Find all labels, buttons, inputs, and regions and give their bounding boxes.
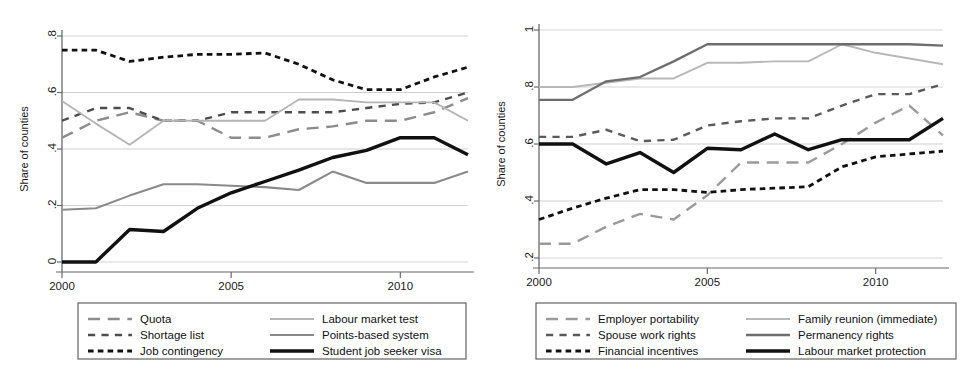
series-line <box>539 44 943 87</box>
legend-item-label: Financial incentives <box>598 345 699 357</box>
legend-item[interactable]: Quota <box>88 313 172 325</box>
legend-item[interactable]: Labour market protection <box>746 345 926 357</box>
y-tick-label: .4 <box>523 195 535 205</box>
left-chart-svg: 0.2.4.6.8200020052010Share of countiesQu… <box>0 0 481 383</box>
y-axis-title: Share of counties <box>18 106 30 192</box>
x-tick-label: 2005 <box>695 276 721 288</box>
legend-item-label: Points-based system <box>322 329 429 341</box>
right-chart-svg: .2.4.6.81200020052010Share of countiesEm… <box>481 0 963 383</box>
legend-item-label: Family reunion (immediate) <box>798 313 937 325</box>
legend-item-label: Job contingency <box>140 345 223 357</box>
x-tick-label: 2000 <box>526 276 552 288</box>
legend-item-label: Shortage list <box>140 329 205 341</box>
x-tick-label: 2010 <box>863 276 889 288</box>
legend: QuotaShortage listJob contingencyLabour … <box>78 303 466 359</box>
panel-left-labour-migration-policies: 0.2.4.6.8200020052010Share of countiesQu… <box>0 0 481 383</box>
x-tick-label: 2000 <box>49 280 75 292</box>
series-line <box>62 93 468 121</box>
legend-item[interactable]: Shortage list <box>88 329 205 341</box>
legend-item[interactable]: Spouse work rights <box>546 329 696 341</box>
legend-item-label: Quota <box>140 313 172 325</box>
y-tick-label: .6 <box>46 87 58 97</box>
y-axis-title: Share of counties <box>495 101 507 187</box>
legend-item[interactable]: Employer portability <box>546 313 699 325</box>
series-line <box>539 84 943 141</box>
figure-two-panel-line-charts: 0.2.4.6.8200020052010Share of countiesQu… <box>0 0 963 383</box>
series-line <box>62 50 468 90</box>
legend-item[interactable]: Financial incentives <box>546 345 699 357</box>
legend-item-label: Labour market protection <box>798 345 926 357</box>
legend-item-label: Labour market test <box>322 313 419 325</box>
series-group <box>62 50 468 262</box>
y-tick-label: .8 <box>523 81 535 91</box>
gridlines <box>62 36 468 262</box>
axes: 0.2.4.6.8200020052010 <box>46 30 474 292</box>
y-tick-label: 0 <box>46 258 58 264</box>
y-tick-label: .8 <box>46 30 58 40</box>
gridlines <box>539 30 943 258</box>
y-tick-label: 1 <box>523 26 535 32</box>
series-line <box>62 138 468 262</box>
legend-item-label: Student job seeker visa <box>322 345 442 357</box>
legend: Employer portabilitySpouse work rightsFi… <box>536 303 956 359</box>
legend-item[interactable]: Labour market test <box>270 313 419 325</box>
y-tick-label: .6 <box>523 138 535 148</box>
legend-item-label: Employer portability <box>598 313 699 325</box>
legend-item[interactable]: Job contingency <box>88 345 223 357</box>
y-tick-label: .2 <box>523 252 535 262</box>
legend-item-label: Spouse work rights <box>598 329 696 341</box>
series-line <box>62 172 468 210</box>
x-tick-label: 2010 <box>388 280 414 292</box>
series-line <box>539 106 943 244</box>
series-line <box>539 118 943 172</box>
legend-item[interactable]: Points-based system <box>270 329 429 341</box>
x-tick-label: 2005 <box>218 280 244 292</box>
series-line <box>539 44 943 100</box>
panel-right-migrant-rights-policies: .2.4.6.81200020052010Share of countiesEm… <box>481 0 962 383</box>
legend-item[interactable]: Student job seeker visa <box>270 345 442 357</box>
legend-item-label: Permanency rights <box>798 329 894 341</box>
legend-item[interactable]: Family reunion (immediate) <box>746 313 937 325</box>
y-tick-label: .2 <box>46 200 58 210</box>
legend-item[interactable]: Permanency rights <box>746 329 894 341</box>
y-tick-label: .4 <box>46 143 58 153</box>
